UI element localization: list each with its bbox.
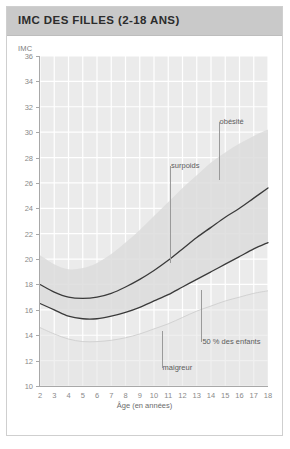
annotation-label: 50 % des enfants <box>202 337 260 346</box>
chart-header-band: IMC DES FILLES (2-18 ANS) <box>7 7 282 36</box>
y-tick-mark <box>36 183 39 184</box>
annotation-leader-line <box>162 331 163 368</box>
y-tick-label: 14 <box>11 331 33 340</box>
y-tick-mark <box>36 81 39 82</box>
page-title: IMC DES FILLES (2-18 ANS) <box>18 14 180 26</box>
x-axis-label: Âge (en années) <box>7 401 282 410</box>
x-tick-label: 15 <box>218 391 232 400</box>
y-tick-mark <box>36 107 39 108</box>
y-tick-label: 24 <box>11 204 33 213</box>
chart-card: IMC DES FILLES (2-18 ANS) IMC 1012141618… <box>6 6 283 436</box>
x-tick-label: 17 <box>247 391 261 400</box>
y-axis-line <box>39 56 40 386</box>
y-tick-mark <box>36 386 39 387</box>
x-tick-label: 11 <box>161 391 175 400</box>
annotation-label: surpoids <box>171 161 199 170</box>
x-tick-label: 12 <box>176 391 190 400</box>
y-tick-mark <box>36 132 39 133</box>
x-tick-label: 13 <box>190 391 204 400</box>
x-tick-label: 8 <box>119 391 133 400</box>
y-tick-label: 30 <box>11 128 33 137</box>
x-axis-line <box>39 386 268 387</box>
y-tick-mark <box>36 284 39 285</box>
x-tick-label: 5 <box>76 391 90 400</box>
y-tick-mark <box>36 310 39 311</box>
x-tick-label: 10 <box>147 391 161 400</box>
y-tick-label: 18 <box>11 280 33 289</box>
y-tick-label: 10 <box>11 382 33 391</box>
y-tick-mark <box>36 234 39 235</box>
y-tick-mark <box>36 158 39 159</box>
x-tick-label: 3 <box>47 391 61 400</box>
chart-body: IMC 1012141618202224262830323436 2345678… <box>7 36 282 436</box>
x-tick-label: 9 <box>133 391 147 400</box>
x-tick-label: 16 <box>233 391 247 400</box>
x-tick-label: 2 <box>33 391 47 400</box>
y-tick-label: 34 <box>11 77 33 86</box>
y-tick-label: 22 <box>11 229 33 238</box>
y-tick-label: 32 <box>11 102 33 111</box>
y-tick-label: 28 <box>11 153 33 162</box>
y-tick-mark <box>36 56 39 57</box>
x-tick-label: 14 <box>204 391 218 400</box>
y-tick-label: 16 <box>11 305 33 314</box>
annotation-leader-line <box>201 290 202 342</box>
y-tick-label: 26 <box>11 178 33 187</box>
x-tick-label: 6 <box>90 391 104 400</box>
y-tick-mark <box>36 361 39 362</box>
y-tick-mark <box>36 259 39 260</box>
x-tick-label: 4 <box>62 391 76 400</box>
y-tick-label: 36 <box>11 52 33 61</box>
y-tick-mark <box>36 208 39 209</box>
annotation-label: maigreur <box>163 363 193 372</box>
y-tick-label: 12 <box>11 356 33 365</box>
annotation-label: obésité <box>220 117 244 126</box>
x-tick-label: 18 <box>261 391 275 400</box>
annotation-leader-line <box>219 122 220 180</box>
annotation-leader-line <box>170 166 171 262</box>
x-tick-label: 7 <box>104 391 118 400</box>
y-tick-mark <box>36 335 39 336</box>
y-tick-label: 20 <box>11 255 33 264</box>
